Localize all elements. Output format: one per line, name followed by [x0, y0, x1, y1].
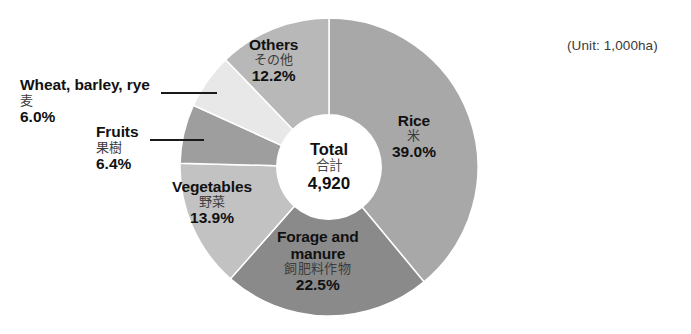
crop-acreage-donut-chart: (Unit: 1,000ha) Total 合計 4,920 Rice 米 39…	[0, 0, 691, 334]
donut-chart-graphic: Total 合計 4,920	[180, 18, 478, 316]
callout-label-fruits: Fruits 果樹 6.4%	[96, 123, 138, 173]
callout-label-fruits-jp: 果樹	[96, 141, 138, 156]
leader-line-wheat	[161, 92, 217, 94]
unit-note: (Unit: 1,000ha)	[567, 38, 658, 53]
callout-label-wheat-en: Wheat, barley, rye	[20, 76, 150, 94]
callout-label-fruits-en: Fruits	[96, 123, 138, 141]
callout-label-wheat-jp: 麦	[20, 94, 150, 109]
donut-svg	[180, 18, 478, 316]
callout-label-wheat: Wheat, barley, rye 麦 6.0%	[20, 76, 150, 126]
callout-label-fruits-percent: 6.4%	[96, 155, 138, 173]
callout-label-wheat-percent: 6.0%	[20, 108, 150, 126]
leader-line-fruits	[150, 139, 204, 141]
